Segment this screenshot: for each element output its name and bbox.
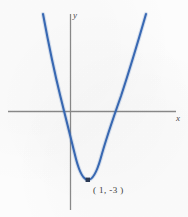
vertex-marker	[86, 178, 90, 182]
x-axis-label: x	[176, 114, 180, 123]
y-axis-label: y	[73, 11, 77, 20]
parabola-figure: y x ( 1, -3 )	[0, 0, 188, 217]
parabola-curve-halo	[43, 14, 146, 180]
vertex-coordinate-label: ( 1, -3 )	[93, 186, 124, 195]
